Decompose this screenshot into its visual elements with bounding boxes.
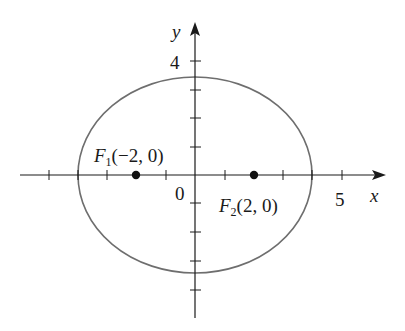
ellipse-diagram: y x 4 5 0 F1(−2, 0) F2(2, 0) bbox=[0, 0, 405, 331]
focus-f1-coords: (−2, 0) bbox=[112, 145, 164, 167]
focus-label-f2: F2(2, 0) bbox=[218, 195, 278, 219]
y-axis-label: y bbox=[170, 21, 181, 42]
focus-point-f1 bbox=[132, 171, 140, 179]
focus-f2-name: F bbox=[218, 195, 231, 216]
x-axis bbox=[20, 170, 386, 180]
focus-label-f1: F1(−2, 0) bbox=[93, 145, 163, 169]
x-tick-label-5: 5 bbox=[335, 189, 345, 210]
focus-f2-coords: (2, 0) bbox=[237, 195, 278, 217]
focus-f1-name: F bbox=[93, 145, 106, 166]
y-tick-label-4: 4 bbox=[170, 52, 180, 73]
x-axis-label: x bbox=[369, 185, 379, 206]
focus-point-f2 bbox=[250, 171, 258, 179]
origin-label: 0 bbox=[175, 183, 185, 204]
